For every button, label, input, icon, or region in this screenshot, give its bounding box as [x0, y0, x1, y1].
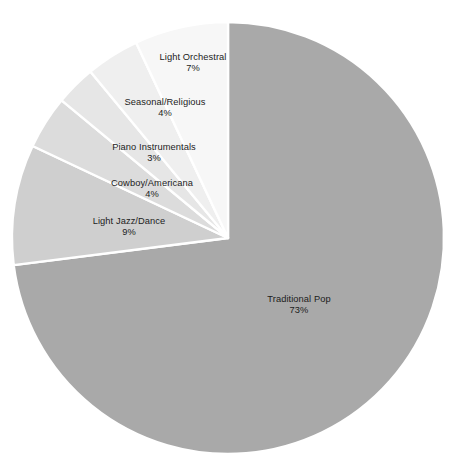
pie-slices-group	[12, 22, 444, 454]
pie-chart: Traditional Pop 73% Light Jazz/Dance 9% …	[0, 0, 455, 467]
pie-chart-canvas	[0, 0, 455, 467]
